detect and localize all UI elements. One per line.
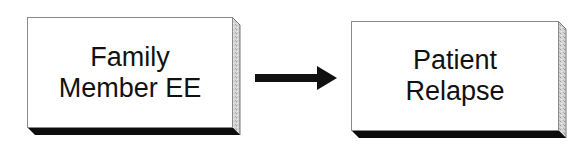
node-patient-relapse: Patient Relapse	[351, 21, 567, 139]
node-label-line-1: Family	[90, 42, 170, 73]
node-label-line-1: Patient	[413, 45, 497, 76]
node-front-face: Family Member EE	[27, 17, 233, 128]
node-family-member-ee: Family Member EE	[27, 17, 241, 136]
node-label-line-2: Relapse	[405, 76, 504, 107]
arrow-right-icon	[255, 66, 339, 90]
node-front-face: Patient Relapse	[351, 21, 559, 131]
node-label-line-2: Member EE	[59, 73, 202, 104]
